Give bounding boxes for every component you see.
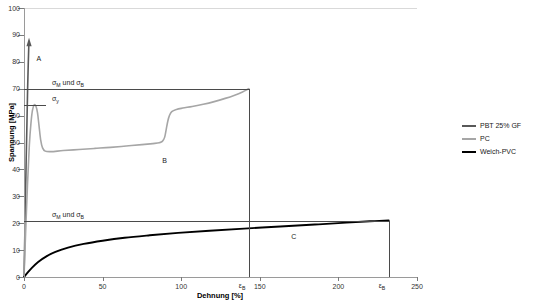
x-tick-250 [417,277,418,281]
legend-swatch-icon [462,151,476,153]
curve-label-c: C [291,233,296,241]
x-tick-label-100: 100 [166,283,196,291]
y-axis-line [24,8,25,277]
chart-legend: PBT 25% GFPCWeich-PVC [462,122,521,156]
legend-label: PC [480,135,490,143]
x-tick-label-0: 0 [9,283,39,291]
strain-label-eps-b-pc: εB [239,282,246,290]
x-tick-label-50: 50 [88,283,118,291]
x-tick-label-150: 150 [245,283,275,291]
curve-pc [24,89,249,277]
plot-canvas [0,0,540,303]
curve-weich-pvc [24,221,389,277]
y-tick-label-80: 80 [0,58,20,65]
y-tick-label-10: 10 [0,247,20,254]
stress-label-sigma-mb-pvc: σM und σB [52,211,84,219]
legend-label: Weich-PVC [480,148,516,156]
x-tick-100 [181,277,182,281]
plot-top-border [24,8,417,9]
x-axis-title: Dehnung [%] [150,291,290,300]
x-tick-50 [103,277,104,281]
legend-swatch-icon [462,125,476,127]
stress-line-sigma-y-pc [24,105,46,106]
x-axis-line [24,277,417,278]
legend-item-weich-pvc[interactable]: Weich-PVC [462,148,521,156]
stress-line-sigma-mb-pc [24,89,249,90]
y-tick-label-0: 0 [0,274,20,281]
legend-swatch-icon [462,138,476,140]
legend-item-pc[interactable]: PC [462,135,521,143]
stress-line-sigma-mb-pvc [24,221,389,222]
strain-line-eps-b-pc [249,89,250,277]
x-tick-200 [338,277,339,281]
stress-label-sigma-y-pc: σy [52,95,59,103]
x-tick-0 [24,277,25,281]
legend-item-pbt-25-gf[interactable]: PBT 25% GF [462,122,521,130]
y-tick-label-90: 90 [0,31,20,38]
strain-label-eps-b-pvc: εB [379,282,386,290]
x-tick-label-250: 250 [402,283,432,291]
y-tick-label-20: 20 [0,220,20,227]
curve-label-b: B [162,157,167,165]
y-tick-label-30: 30 [0,193,20,200]
strain-line-eps-b-pvc [389,221,390,277]
y-tick-label-100: 100 [0,5,20,12]
legend-label: PBT 25% GF [480,122,521,130]
y-axis-title: Spannung [MPa] [7,88,16,178]
curve-label-a: A [37,55,42,63]
stress-strain-chart: 0102030405060708090100 050100150200250 S… [0,0,540,303]
stress-label-sigma-mb-pc: σM und σB [52,79,84,87]
x-tick-150 [260,277,261,281]
curve-a-fracture-arrow-icon [26,38,31,47]
x-tick-label-200: 200 [323,283,353,291]
